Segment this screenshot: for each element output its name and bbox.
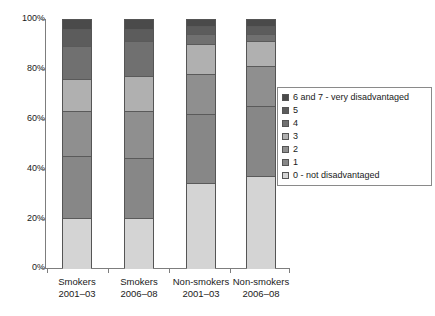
legend-label: 2 — [293, 145, 298, 154]
bar-segment[interactable] — [187, 115, 215, 185]
legend-label: 5 — [293, 106, 298, 115]
bar-smokers-2001-03[interactable] — [62, 19, 92, 268]
y-axis-label-0: 0% — [9, 263, 45, 272]
bar-segment[interactable] — [125, 20, 153, 30]
bar-segment[interactable] — [247, 177, 275, 269]
x-axis-label-3: Non-smokers 2006–08 — [215, 276, 307, 299]
bar-segment[interactable] — [63, 20, 91, 30]
bar-segment[interactable] — [63, 157, 91, 219]
bar-segment[interactable] — [125, 77, 153, 112]
legend-swatch-icon — [282, 107, 289, 114]
legend-swatch-icon — [282, 94, 289, 101]
legend-swatch-icon — [282, 120, 289, 127]
bar-segment[interactable] — [63, 112, 91, 157]
x-axis-label-3-line2: 2006–08 — [215, 288, 307, 300]
y-axis-label-40: 40% — [9, 164, 45, 173]
bar-segment[interactable] — [125, 42, 153, 77]
bar-segment[interactable] — [63, 80, 91, 112]
bar-segment[interactable] — [63, 30, 91, 47]
chart-legend: 6 and 7 - very disadvantaged543210 - not… — [277, 87, 432, 186]
legend-swatch-icon — [282, 172, 289, 179]
legend-swatch-icon — [282, 159, 289, 166]
x-tick-4 — [289, 268, 290, 273]
legend-label: 6 and 7 - very disadvantaged — [293, 93, 409, 102]
x-tick-1 — [108, 268, 109, 273]
y-axis-line — [45, 19, 46, 269]
x-axis-label-1-line1: Smokers — [120, 276, 157, 287]
bar-non-smokers-2006-08[interactable] — [246, 19, 276, 268]
bar-segment[interactable] — [247, 67, 275, 107]
bar-smokers-2006-08[interactable] — [124, 19, 154, 268]
legend-item[interactable]: 5 — [282, 104, 427, 117]
y-axis-label-60: 60% — [9, 114, 45, 123]
y-axis-label-20: 20% — [9, 214, 45, 223]
bar-segment[interactable] — [187, 45, 215, 75]
y-axis-label-100: 100% — [9, 14, 45, 23]
bar-segment[interactable] — [187, 20, 215, 27]
bar-segment[interactable] — [247, 35, 275, 42]
legend-item[interactable]: 1 — [282, 156, 427, 169]
bar-non-smokers-2001-03[interactable] — [186, 19, 216, 268]
x-axis-label-3-line1: Non-smokers — [233, 276, 290, 287]
y-axis-label-80: 80% — [9, 64, 45, 73]
bar-segment[interactable] — [187, 184, 215, 269]
legend-item[interactable]: 6 and 7 - very disadvantaged — [282, 91, 427, 104]
legend-item[interactable]: 4 — [282, 117, 427, 130]
stacked-bar-chart: 100% 80% 60% 40% 20% 0% Smok — [0, 0, 435, 316]
x-tick-2 — [169, 268, 170, 273]
bar-segment[interactable] — [63, 47, 91, 79]
x-tick-3 — [230, 268, 231, 273]
bar-segment[interactable] — [247, 20, 275, 27]
legend-label: 0 - not disadvantaged — [293, 171, 380, 180]
legend-item[interactable]: 2 — [282, 143, 427, 156]
bar-segment[interactable] — [125, 30, 153, 42]
x-axis-label-0-line1: Smokers — [58, 276, 95, 287]
bar-segment[interactable] — [187, 27, 215, 34]
legend-label: 1 — [293, 158, 298, 167]
bar-segment[interactable] — [247, 42, 275, 67]
bar-segment[interactable] — [247, 27, 275, 34]
x-tick-0 — [47, 268, 48, 273]
bar-segment[interactable] — [63, 219, 91, 269]
bar-segment[interactable] — [125, 112, 153, 159]
bar-segment[interactable] — [125, 219, 153, 269]
bar-segment[interactable] — [187, 35, 215, 45]
legend-item[interactable]: 0 - not disadvantaged — [282, 169, 427, 182]
legend-label: 3 — [293, 132, 298, 141]
legend-item[interactable]: 3 — [282, 130, 427, 143]
bar-segment[interactable] — [187, 75, 215, 115]
legend-swatch-icon — [282, 146, 289, 153]
bar-segment[interactable] — [125, 159, 153, 219]
legend-swatch-icon — [282, 133, 289, 140]
legend-label: 4 — [293, 119, 298, 128]
bar-segment[interactable] — [247, 107, 275, 177]
